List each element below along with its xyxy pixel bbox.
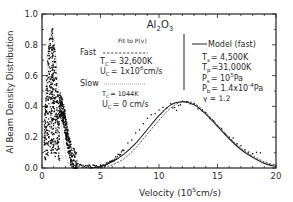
legend-fast-uc: UC= 1x106cm/s xyxy=(100,65,163,77)
legend-model: Model (fast) Ts= 4,500K Tp=31,000K Ps= 1… xyxy=(192,40,263,103)
x-tick-label: 0 xyxy=(39,171,44,181)
legend-slow-tc: TC= 1044K xyxy=(101,90,139,99)
y-axis-label: Al Beam Density Distribution xyxy=(5,31,15,154)
legend-model-label: Model (fast) xyxy=(208,40,256,49)
series-dashed-curve xyxy=(101,101,277,168)
x-axis-label: Velocity (105cm/s) xyxy=(139,186,221,198)
x-tick-label: 20 xyxy=(271,171,282,181)
x-axis-tick-labels: 05101520 xyxy=(39,171,281,181)
y-axis-tick-labels: 0.00.20.40.60.81.0 xyxy=(24,9,38,173)
x-tick-label: 5 xyxy=(98,171,103,181)
legend-model-pb: Pb= 1.4x10-4Pa xyxy=(202,82,263,94)
legend-model-gamma: γ = 1.2 xyxy=(203,94,231,103)
series-solid-curve xyxy=(89,102,276,168)
legend-fit: Fit to P(v) Fast TC= 32,600K UC= 1x106cm… xyxy=(80,37,163,110)
legend-slow-label: Slow xyxy=(80,79,99,88)
x-tick-label: 10 xyxy=(154,171,165,181)
legend-fast-tc: TC= 32,600K xyxy=(99,57,153,67)
y-tick-label: 0.6 xyxy=(24,71,38,81)
y-tick-label: 0.0 xyxy=(24,163,38,173)
chart-container: 05101520 0.00.20.40.60.81.0 Velocity (10… xyxy=(0,0,293,202)
legend-model-tp: Tp=31,000K xyxy=(201,63,252,74)
y-tick-label: 0.8 xyxy=(24,40,38,50)
legend-slow-uc: UC= 0 cm/s xyxy=(102,100,149,110)
legend-fast-label: Fast xyxy=(80,48,96,57)
legend-model-ts: Ts= 4,500K xyxy=(201,53,249,63)
legend-model-ps: Ps= 105Pa xyxy=(202,72,243,84)
y-tick-label: 0.2 xyxy=(24,132,38,142)
plot-series xyxy=(42,28,276,168)
chart-title: Al2O3 xyxy=(147,19,173,33)
legend-fit-header: Fit to P(v) xyxy=(118,37,147,44)
y-tick-label: 1.0 xyxy=(24,9,38,19)
y-tick-label: 0.4 xyxy=(24,101,38,111)
x-tick-label: 15 xyxy=(212,171,223,181)
